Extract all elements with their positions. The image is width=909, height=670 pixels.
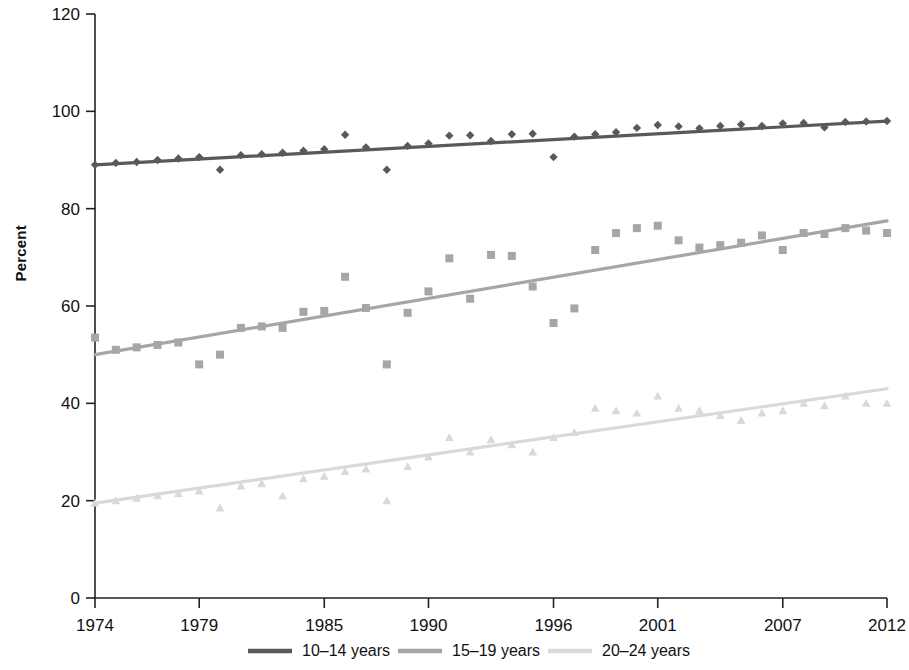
y-tick-label: 40	[61, 394, 80, 413]
chart-canvas: 0204060801001201974197919851990199620012…	[0, 0, 909, 670]
data-point-square	[487, 251, 495, 259]
data-point-square	[654, 222, 662, 230]
data-point-square	[550, 319, 558, 327]
y-tick-label: 100	[52, 102, 80, 121]
series-group	[91, 117, 891, 174]
data-point-triangle	[778, 406, 787, 414]
data-point-triangle	[299, 474, 308, 482]
x-tick-label: 1996	[535, 616, 573, 635]
data-point-square	[383, 360, 391, 368]
x-tick-label: 1979	[180, 616, 218, 635]
x-tick-label: 1974	[76, 616, 114, 635]
data-point-triangle	[487, 435, 496, 443]
data-point-square	[883, 229, 891, 237]
y-tick-label: 120	[52, 5, 80, 24]
legend-item[interactable]: 15–19 years	[398, 642, 540, 659]
data-point-square	[508, 252, 516, 260]
data-point-square	[216, 351, 224, 359]
data-point-triangle	[528, 448, 537, 456]
legend-item[interactable]: 20–24 years	[548, 642, 690, 659]
data-point-triangle	[612, 406, 621, 414]
data-point-triangle	[591, 404, 600, 412]
legend-label: 10–14 years	[302, 642, 390, 659]
data-point-diamond	[341, 130, 349, 138]
data-point-triangle	[320, 472, 329, 480]
data-point-square	[529, 283, 537, 291]
data-point-square	[341, 273, 349, 281]
data-point-triangle	[632, 409, 641, 417]
data-point-triangle	[820, 401, 829, 409]
trend-line	[95, 221, 887, 355]
data-point-square	[779, 246, 787, 254]
data-point-square	[466, 295, 474, 303]
y-tick-label: 0	[71, 589, 80, 608]
data-point-triangle	[862, 399, 871, 407]
data-point-square	[862, 227, 870, 235]
data-point-triangle	[278, 491, 287, 499]
data-point-square	[612, 229, 620, 237]
data-point-triangle	[382, 496, 391, 504]
data-point-diamond	[216, 166, 224, 174]
data-point-square	[758, 231, 766, 239]
data-point-triangle	[758, 409, 767, 417]
legend-item[interactable]: 10–14 years	[248, 642, 390, 659]
data-point-square	[404, 309, 412, 317]
data-point-square	[570, 304, 578, 312]
chart-figure: Percent 02040608010012019741979198519901…	[0, 0, 909, 670]
data-point-diamond	[674, 122, 682, 130]
data-point-diamond	[654, 121, 662, 129]
data-point-diamond	[549, 153, 557, 161]
data-point-diamond	[508, 130, 516, 138]
data-point-square	[591, 246, 599, 254]
trend-line	[95, 389, 887, 503]
data-point-diamond	[383, 166, 391, 174]
data-point-diamond	[445, 131, 453, 139]
data-point-square	[195, 360, 203, 368]
x-tick-label: 2001	[639, 616, 677, 635]
data-point-square	[695, 244, 703, 252]
data-point-triangle	[445, 433, 454, 441]
data-point-square	[424, 287, 432, 295]
data-point-square	[445, 254, 453, 262]
data-point-square	[633, 224, 641, 232]
data-point-square	[91, 334, 99, 342]
data-point-triangle	[653, 392, 662, 400]
data-point-square	[279, 324, 287, 332]
x-tick-label: 2007	[764, 616, 802, 635]
y-tick-label: 80	[61, 200, 80, 219]
data-point-triangle	[737, 416, 746, 424]
data-point-triangle	[695, 406, 704, 414]
y-tick-label: 60	[61, 297, 80, 316]
legend-label: 15–19 years	[452, 642, 540, 659]
legend-label: 20–24 years	[602, 642, 690, 659]
data-point-square	[299, 308, 307, 316]
data-point-triangle	[674, 404, 683, 412]
series-group	[91, 221, 891, 369]
data-point-square	[320, 307, 328, 315]
data-point-triangle	[883, 399, 892, 407]
data-point-diamond	[466, 131, 474, 139]
x-tick-label: 1990	[410, 616, 448, 635]
x-tick-label: 1985	[305, 616, 343, 635]
series-group	[91, 389, 892, 512]
trend-line	[95, 121, 887, 165]
data-point-triangle	[216, 504, 225, 512]
x-tick-label: 2012	[868, 616, 906, 635]
data-point-triangle	[403, 462, 412, 470]
y-tick-label: 20	[61, 492, 80, 511]
data-point-square	[675, 236, 683, 244]
data-point-diamond	[633, 124, 641, 132]
data-point-diamond	[528, 130, 536, 138]
